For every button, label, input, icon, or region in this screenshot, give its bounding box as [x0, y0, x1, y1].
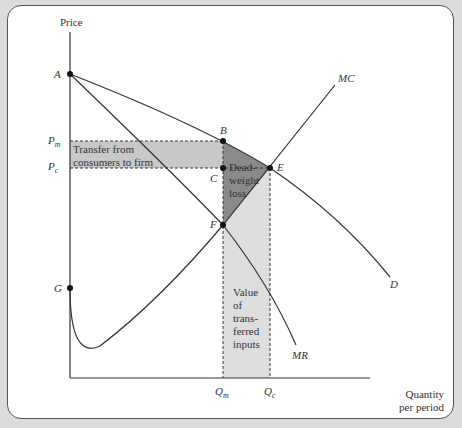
point-f	[220, 222, 226, 228]
mc-label: MC	[338, 72, 355, 85]
qm-label: Qm	[215, 385, 229, 402]
point-e	[267, 165, 273, 171]
x-axis-label-line1: Quantity	[400, 388, 444, 401]
point-a	[67, 71, 73, 77]
point-a-label: A	[54, 68, 61, 81]
pc-label: Pc	[48, 160, 58, 177]
x-axis-label-line2: per period	[384, 401, 444, 414]
pm-label: Pm	[48, 134, 61, 151]
point-f-label: F	[210, 218, 217, 231]
qc-label: Qc	[264, 385, 276, 402]
point-c	[220, 165, 226, 171]
diagram-canvas	[0, 0, 462, 428]
d-label: D	[390, 278, 398, 291]
point-b-label: B	[220, 124, 227, 137]
point-b	[220, 138, 226, 144]
mc-curve	[70, 85, 335, 348]
point-g-label: G	[54, 282, 62, 295]
transfer-label: Transfer from consumers to firm	[73, 143, 153, 169]
point-e-label: E	[277, 161, 284, 174]
transferred-inputs-label: Value of trans- ferred inputs	[233, 286, 260, 351]
y-axis-label: Price	[60, 16, 83, 29]
deadweight-loss-label: Dead- weight loss	[229, 161, 259, 200]
point-g	[67, 285, 73, 291]
mr-label: MR	[292, 349, 308, 362]
point-c-label: C	[210, 172, 217, 185]
